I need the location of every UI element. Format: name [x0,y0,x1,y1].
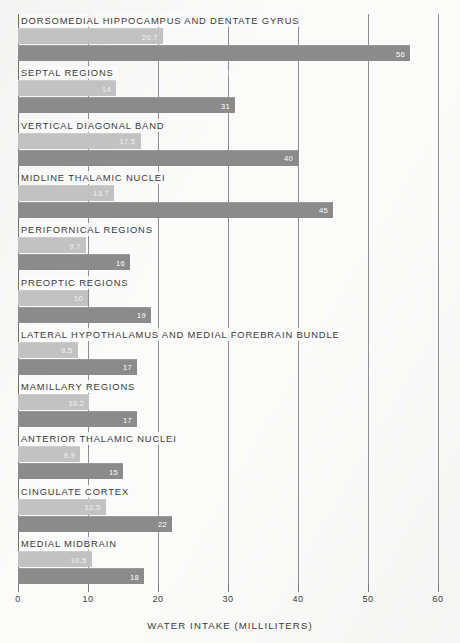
tick-label-50: 50 [362,594,373,604]
bar-light-bar: 10 [18,290,88,306]
bar-value-label: 22 [158,520,167,529]
bar-light-bar: 20.7 [18,28,163,44]
bar-group: ANTERIOR THALAMIC NUCLEI8.915 [18,432,438,484]
bar-value-label: 10.2 [68,398,84,407]
bar-value-label: 31 [221,101,230,110]
bar-value-label: 14 [102,84,111,93]
category-label: MEDIAL MIDBRAIN [21,537,120,550]
bar-dark-bar: 17 [18,359,137,375]
bar-value-label: 17 [123,415,132,424]
tick-mark-30 [228,584,229,592]
bar-light-bar: 10.5 [18,551,92,567]
bar-value-label: 56 [396,49,405,58]
bar-light-bar: 13.7 [18,185,114,201]
bar-light-bar: 8.9 [18,446,80,462]
x-axis: 0102030405060 [18,592,438,622]
bar-group: SEPTAL REGIONS1431 [18,66,438,118]
tick-mark-60 [438,584,439,592]
plot-area: DORSOMEDIAL HIPPOCAMPUS AND DENTATE GYRU… [18,14,438,592]
bar-group: DORSOMEDIAL HIPPOCAMPUS AND DENTATE GYRU… [18,14,438,66]
bar-value-label: 10 [74,294,83,303]
bar-value-label: 45 [319,206,328,215]
bar-dark-bar: 45 [18,202,333,218]
bar-group: CINGULATE CORTEX12.522 [18,485,438,537]
bar-value-label: 16 [116,258,125,267]
bar-light-bar: 14 [18,80,116,96]
bar-dark-bar: 17 [18,411,137,427]
category-label: MAMILLARY REGIONS [21,380,138,393]
bar-value-label: 10.5 [71,555,87,564]
bar-value-label: 8.5 [61,346,72,355]
bar-value-label: 15 [109,467,118,476]
bar-dark-bar: 22 [18,516,172,532]
x-axis-label: WATER INTAKE (MILLILITERS) [0,620,460,631]
bar-light-bar: 8.5 [18,342,78,358]
bar-group: LATERAL HYPOTHALAMUS AND MEDIAL FOREBRAI… [18,328,438,380]
bar-value-label: 17.5 [120,137,136,146]
bar-value-label: 17 [123,363,132,372]
gridline-60 [438,14,439,592]
bar-dark-bar: 15 [18,463,123,479]
bar-dark-bar: 19 [18,307,151,323]
category-label: SEPTAL REGIONS [21,66,117,79]
bar-value-label: 20.7 [142,32,158,41]
bar-light-bar: 10.2 [18,394,89,410]
category-label: VERTICAL DIAGONAL BAND [21,119,167,132]
bar-value-label: 12.5 [85,503,101,512]
bar-group: MAMILLARY REGIONS10.217 [18,380,438,432]
bar-group: PERIFORNICAL REGIONS9.716 [18,223,438,275]
horizontal-bar-chart: DORSOMEDIAL HIPPOCAMPUS AND DENTATE GYRU… [0,0,460,643]
bar-group: VERTICAL DIAGONAL BAND17.540 [18,119,438,171]
bar-value-label: 18 [130,572,139,581]
category-label: DORSOMEDIAL HIPPOCAMPUS AND DENTATE GYRU… [21,14,302,27]
bar-group: PREOPTIC REGIONS1019 [18,276,438,328]
bar-dark-bar: 31 [18,97,235,113]
bar-value-label: 8.9 [64,450,75,459]
tick-mark-20 [158,584,159,592]
bar-group: MEDIAL MIDBRAIN10.518 [18,537,438,589]
tick-mark-50 [368,584,369,592]
tick-label-0: 0 [15,594,21,604]
bar-dark-bar: 18 [18,568,144,584]
category-label: MIDLINE THALAMIC NUCLEI [21,171,168,184]
tick-label-60: 60 [432,594,443,604]
tick-label-40: 40 [292,594,303,604]
category-label: LATERAL HYPOTHALAMUS AND MEDIAL FOREBRAI… [21,328,343,341]
category-label: ANTERIOR THALAMIC NUCLEI [21,432,180,445]
bar-value-label: 13.7 [93,189,109,198]
category-label: PREOPTIC REGIONS [21,276,131,289]
category-label: CINGULATE CORTEX [21,485,132,498]
tick-label-30: 30 [222,594,233,604]
bar-value-label: 40 [284,154,293,163]
bar-value-label: 9.7 [69,241,80,250]
tick-label-10: 10 [82,594,93,604]
tick-mark-10 [88,584,89,592]
tick-label-20: 20 [152,594,163,604]
bar-group: MIDLINE THALAMIC NUCLEI13.745 [18,171,438,223]
bar-light-bar: 12.5 [18,499,106,515]
bar-light-bar: 17.5 [18,133,141,149]
bar-dark-bar: 40 [18,150,298,166]
bar-value-label: 19 [137,311,146,320]
bar-dark-bar: 56 [18,45,410,61]
tick-mark-40 [298,584,299,592]
bar-dark-bar: 16 [18,254,130,270]
tick-mark-0 [18,584,19,592]
bar-light-bar: 9.7 [18,237,86,253]
category-label: PERIFORNICAL REGIONS [21,223,156,236]
